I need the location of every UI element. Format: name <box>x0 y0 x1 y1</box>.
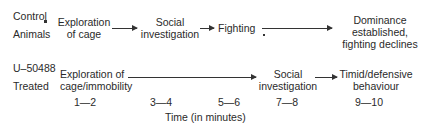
time-tick: 9—10 <box>352 96 386 108</box>
time-axis-label: Time (in minutes) <box>165 111 246 123</box>
arrow-icon <box>112 28 137 29</box>
time-tick: 5—6 <box>214 96 244 108</box>
arrow-icon <box>128 77 256 78</box>
time-tick: 3—4 <box>146 96 176 108</box>
control-stage-fighting: Fighting <box>218 22 255 34</box>
arrow-icon <box>200 28 214 29</box>
stage-text: Exploration of <box>60 68 124 80</box>
stage-text: investigation <box>258 80 318 92</box>
arrow-icon <box>262 28 332 29</box>
treated-label: Treated <box>13 80 49 92</box>
stage-text: cage/immobility <box>60 80 132 92</box>
stage-text: Exploration <box>56 16 112 28</box>
time-tick: 7—8 <box>272 96 302 108</box>
control-label: Control <box>13 10 47 22</box>
stage-text: established, <box>340 26 420 38</box>
stage-text: Social <box>140 16 200 28</box>
stage-text: Dominance <box>340 14 420 26</box>
stage-text: Social <box>258 68 318 80</box>
marker-icon <box>44 20 47 23</box>
animals-label: Animals <box>13 28 50 40</box>
u50488-label: U–50488 <box>13 62 56 74</box>
stage-text: behaviour <box>338 80 414 92</box>
stage-text: of cage <box>56 28 112 40</box>
arrow-icon <box>315 77 337 78</box>
marker-icon <box>263 34 265 36</box>
stage-text: investigation <box>140 28 200 40</box>
stage-text: Timid/defensive <box>338 68 414 80</box>
time-tick: 1—2 <box>70 96 100 108</box>
stage-text: fighting declines <box>340 38 420 50</box>
